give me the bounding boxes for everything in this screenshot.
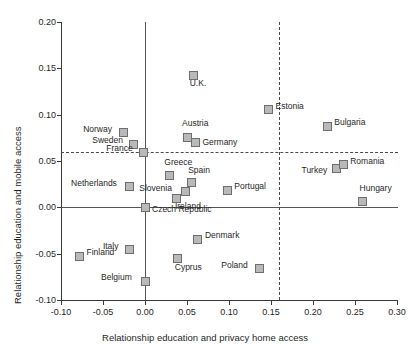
x-tick xyxy=(355,301,356,305)
data-point-label: U.K. xyxy=(190,79,207,88)
data-point-label: Cyprus xyxy=(175,263,202,272)
y-tick xyxy=(57,161,61,162)
data-point-marker[interactable] xyxy=(75,252,84,261)
x-tick-label: 0.10 xyxy=(209,307,249,317)
data-point-marker[interactable] xyxy=(165,171,174,180)
x-axis-title: Relationship education and privacy home … xyxy=(0,332,410,343)
y-tick-label: 0.10 xyxy=(21,110,56,120)
data-point-label: Slovenia xyxy=(139,184,172,193)
data-point-label: Romania xyxy=(350,157,384,166)
x-tick xyxy=(103,301,104,305)
data-point-label: Belgium xyxy=(101,273,132,282)
y-tick-label: -0.10 xyxy=(21,295,56,305)
x-tick xyxy=(271,301,272,305)
x-tick-label: 0.25 xyxy=(335,307,375,317)
mean-line-vertical xyxy=(279,22,280,300)
x-tick-label: -0.10 xyxy=(41,307,81,317)
data-point-label: Norway xyxy=(83,125,112,134)
data-point-label: Portugal xyxy=(234,182,266,191)
data-point-marker[interactable] xyxy=(264,105,273,114)
y-tick xyxy=(57,115,61,116)
y-tick xyxy=(57,300,61,301)
x-tick xyxy=(187,301,188,305)
data-point-label: Bulgaria xyxy=(334,118,365,127)
x-tick-label: 0.00 xyxy=(125,307,165,317)
data-point-marker[interactable] xyxy=(125,182,134,191)
x-tick-label: -0.05 xyxy=(83,307,123,317)
x-tick-label: 0.20 xyxy=(293,307,333,317)
y-tick-label: -0.05 xyxy=(21,249,56,259)
y-tick-label: 0.15 xyxy=(21,63,56,73)
x-tick xyxy=(145,301,146,305)
y-tick-label: 0.20 xyxy=(21,17,56,27)
data-point-label: Netherlands xyxy=(71,179,117,188)
y-axis-line xyxy=(61,22,62,301)
scatter-chart: Relationship education and privacy home … xyxy=(0,0,410,347)
x-tick-label: 0.05 xyxy=(167,307,207,317)
data-point-marker[interactable] xyxy=(339,160,348,169)
data-point-label: Germany xyxy=(202,138,237,147)
data-point-label: Finland xyxy=(86,248,114,257)
data-point-marker[interactable] xyxy=(323,122,332,131)
zero-line-vertical xyxy=(145,22,146,300)
data-point-label: Spain xyxy=(188,166,210,175)
y-tick-label: 0.00 xyxy=(21,202,56,212)
data-point-marker[interactable] xyxy=(191,138,200,147)
data-point-label: Czech Republic xyxy=(152,205,212,214)
data-point-marker[interactable] xyxy=(141,277,150,286)
x-tick xyxy=(397,301,398,305)
y-tick-label: 0.05 xyxy=(21,156,56,166)
x-tick-label: 0.30 xyxy=(377,307,410,317)
data-point-label: Denmark xyxy=(205,231,239,240)
data-point-marker[interactable] xyxy=(255,264,264,273)
data-point-marker[interactable] xyxy=(181,187,190,196)
x-tick xyxy=(229,301,230,305)
data-point-label: France xyxy=(106,144,132,153)
data-point-marker[interactable] xyxy=(358,197,367,206)
x-tick xyxy=(61,301,62,305)
data-point-marker[interactable] xyxy=(125,245,134,254)
data-point-marker[interactable] xyxy=(139,148,148,157)
y-tick xyxy=(57,68,61,69)
data-point-label: Estonia xyxy=(275,102,303,111)
data-point-marker[interactable] xyxy=(223,186,232,195)
x-tick xyxy=(313,301,314,305)
data-point-label: Austria xyxy=(182,119,208,128)
y-tick xyxy=(57,254,61,255)
data-point-marker[interactable] xyxy=(141,203,150,212)
y-axis-title: Relationship education and mobile access xyxy=(12,127,23,304)
data-point-label: Hungary xyxy=(360,184,392,193)
zero-line-horizontal xyxy=(61,207,398,208)
y-tick xyxy=(57,22,61,23)
x-tick-label: 0.15 xyxy=(251,307,291,317)
data-point-label: Turkey xyxy=(302,166,328,175)
data-point-marker[interactable] xyxy=(193,235,202,244)
data-point-label: Poland xyxy=(221,261,247,270)
